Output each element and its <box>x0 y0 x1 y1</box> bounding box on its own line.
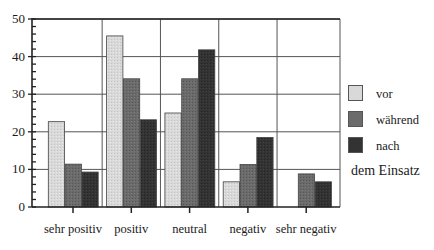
bar-negativ-vor <box>223 182 239 207</box>
y-tick-label: 40 <box>3 50 25 63</box>
legend-label: nach <box>376 139 400 153</box>
bar-positiv-vor <box>107 36 123 207</box>
bar-neutral-vor <box>165 113 181 207</box>
legend-caption: dem Einsatz <box>351 163 420 179</box>
y-tick-label: 10 <box>3 162 25 175</box>
bar-sehr-positiv-nach <box>82 172 98 207</box>
bar-neutral-während <box>182 79 198 207</box>
x-category-label: sehr negativ <box>266 222 346 236</box>
bar-sehr-negativ-nach <box>315 182 331 207</box>
bar-negativ-während <box>240 165 256 207</box>
bar-neutral-nach <box>199 50 215 207</box>
legend-swatch-nach <box>348 137 363 153</box>
y-tick-label: 0 <box>3 200 25 213</box>
bar-sehr-positiv-während <box>65 164 81 207</box>
plot-area <box>0 0 434 250</box>
bar-positiv-während <box>123 79 139 207</box>
bar-sehr-positiv-vor <box>48 122 64 207</box>
y-tick-label: 20 <box>3 125 25 138</box>
y-tick-label: 50 <box>3 12 25 25</box>
bar-negativ-nach <box>257 137 273 207</box>
legend-swatch-vor <box>348 85 363 101</box>
legend-swatch-während <box>348 111 363 127</box>
legend-label: vor <box>376 87 393 101</box>
legend-label: während <box>376 113 419 127</box>
bar-positiv-nach <box>140 120 156 207</box>
grouped-bar-chart: 01020304050sehr positivpositivneutralneg… <box>0 0 434 250</box>
bar-sehr-negativ-während <box>298 174 314 207</box>
y-tick-label: 30 <box>3 87 25 100</box>
